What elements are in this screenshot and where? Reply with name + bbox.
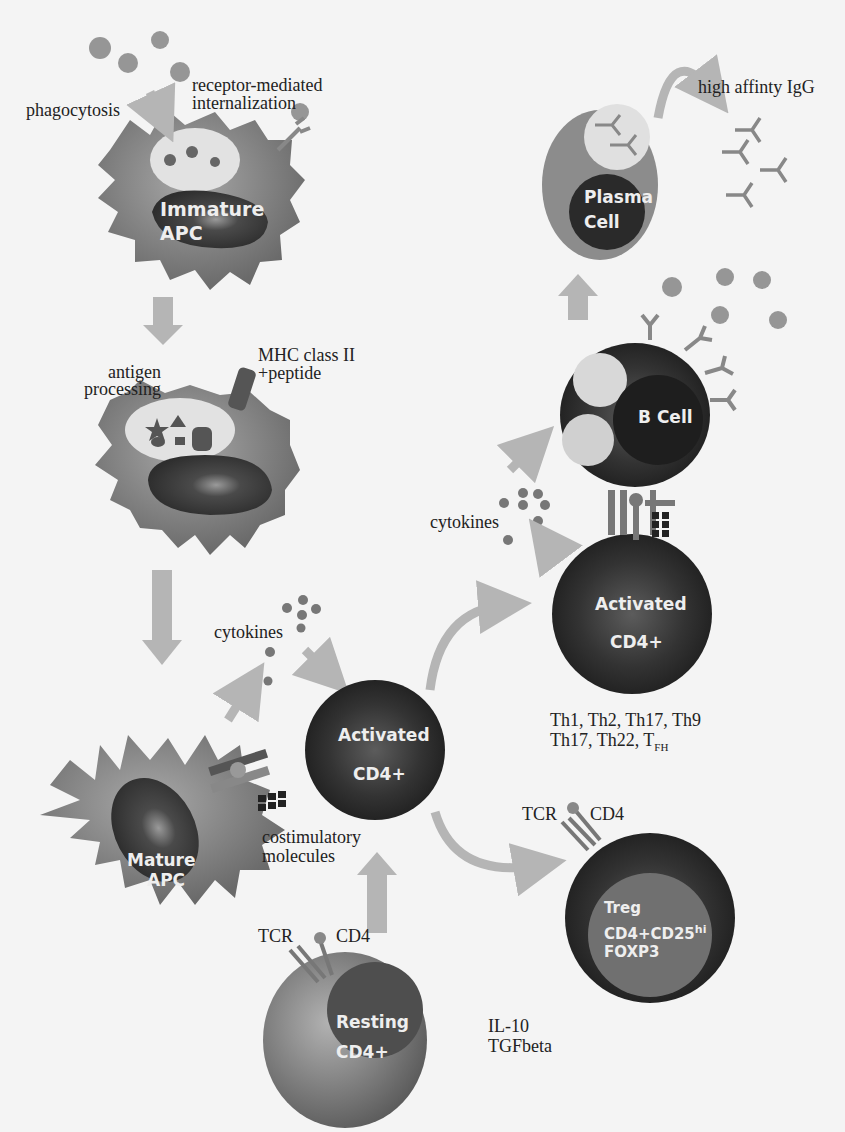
activated-cd4-right-label-line2: CD4+ — [610, 630, 663, 654]
label-tgfbeta: TGFbeta — [488, 1036, 552, 1056]
resting-cd4-label-line1: Resting — [336, 1010, 409, 1034]
label-il-10: IL-10 — [488, 1016, 529, 1036]
arrow-up-to-plasma — [558, 274, 598, 320]
activated-cd4-left-label-line2: CD4+ — [353, 762, 406, 786]
activated-cd4-left-cell — [305, 680, 445, 820]
cytokine-arrow-to-activated — [305, 650, 330, 675]
label-high-affinity-igg: high affinty IgG — [698, 77, 815, 97]
arrow-down-1 — [143, 297, 183, 345]
activated-cd4-left-label-line1: Activated — [338, 723, 430, 747]
label-receptor-mediated-line1: receptor-mediated — [192, 75, 323, 95]
label-cytokines-left: cytokines — [214, 622, 283, 642]
label-processing: processing — [84, 379, 161, 399]
b-cell-label: B Cell — [638, 405, 693, 429]
label-molecules: molecules — [262, 846, 335, 866]
immature-apc-label-line2: APC — [160, 221, 203, 245]
cd25-superscript: hi — [695, 923, 707, 936]
phagocytosis-arrow — [150, 92, 162, 118]
label-plus-peptide: +peptide — [258, 363, 321, 383]
label-receptor-mediated-line2: internalization — [192, 93, 296, 113]
tfh-subscript: FH — [654, 741, 668, 753]
treg-label-line1: Treg — [604, 896, 641, 920]
arrow-down-2 — [142, 570, 182, 665]
label-tcr-resting: TCR — [258, 926, 293, 946]
treg-label-line3: FOXP3 — [604, 940, 659, 964]
label-th-subsets-line2: Th17, Th22, TFH — [550, 730, 668, 757]
immature-apc-label-line1: Immature — [160, 197, 264, 221]
mature-apc-label-line2: APC — [147, 868, 185, 892]
label-cd4-treg: CD4 — [590, 804, 624, 824]
label-costimulatory: costimulatory — [262, 827, 361, 847]
plasma-cell — [542, 104, 658, 260]
arrow-to-b-cell — [510, 445, 535, 470]
cytokine-dots-right — [499, 488, 550, 545]
arrow-up-from-mature-apc — [228, 685, 250, 720]
costimulatory-icon-right — [652, 512, 669, 537]
antibody-icons-free — [722, 118, 786, 207]
receptor-icon — [278, 118, 310, 150]
label-cd4-resting: CD4 — [336, 926, 370, 946]
plasma-cell-label-line2: Cell — [584, 210, 620, 234]
plasma-cell-label-line1: Plasma — [584, 185, 653, 209]
diagram-canvas — [0, 0, 845, 1132]
resting-cd4-label-line2: CD4+ — [336, 1040, 389, 1064]
label-phagocytosis: phagocytosis — [26, 100, 120, 120]
label-th-subsets-line1: Th1, Th2, Th17, Th9 — [550, 710, 701, 730]
label-cytokines-right: cytokines — [430, 512, 499, 532]
antigen-cluster-icons-right — [662, 268, 787, 329]
arrow-curve-to-activated-right — [430, 605, 505, 690]
arrow-up-from-resting — [357, 852, 397, 933]
activated-cd4-right-label-line1: Activated — [595, 592, 687, 616]
label-tcr-treg: TCR — [522, 804, 557, 824]
arrow-cytokines-up-left — [545, 540, 560, 560]
label-mhc-class-ii: MHC class II — [258, 345, 355, 365]
